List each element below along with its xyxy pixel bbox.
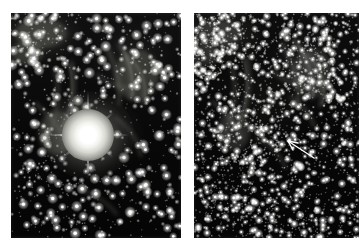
right-image-panel[interactable] [194,13,359,238]
nova-core [62,109,114,161]
figure-container [0,0,359,252]
left-image-panel[interactable] [11,13,181,238]
arrow-marker-icon [194,13,359,238]
